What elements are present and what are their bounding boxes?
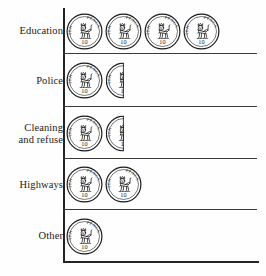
coin-icon	[66, 115, 103, 152]
coin-icon	[66, 13, 103, 50]
coin-group	[66, 159, 142, 210]
row-label: Police	[3, 75, 63, 87]
coin-icon	[66, 218, 103, 255]
coin-icon	[183, 13, 220, 50]
coin-icon	[144, 13, 181, 50]
pictogram-row: Other	[0, 210, 266, 262]
row-label: Other	[3, 230, 63, 242]
pictogram-row: Police	[0, 54, 266, 107]
coin-group	[66, 8, 220, 54]
coin-group	[66, 210, 103, 262]
coin-group	[66, 54, 124, 107]
coin-icon	[66, 62, 103, 99]
pictogram-row: Cleaning and refuse	[0, 107, 266, 159]
coin-group	[66, 107, 124, 159]
half-coin-icon	[105, 115, 124, 152]
row-label: Highways	[3, 179, 63, 191]
half-coin-icon	[105, 62, 124, 99]
plot-area: EducationPoliceCleaning and refuseHighwa…	[0, 8, 266, 262]
coin-icon	[105, 166, 142, 203]
pictogram-chart: EducationPoliceCleaning and refuseHighwa…	[0, 0, 266, 276]
coin-icon	[105, 13, 142, 50]
pictogram-row: Highways	[0, 159, 266, 210]
row-label: Cleaning and refuse	[3, 122, 63, 145]
pictogram-row: Education	[0, 8, 266, 54]
coin-icon	[66, 166, 103, 203]
row-label: Education	[3, 25, 63, 37]
